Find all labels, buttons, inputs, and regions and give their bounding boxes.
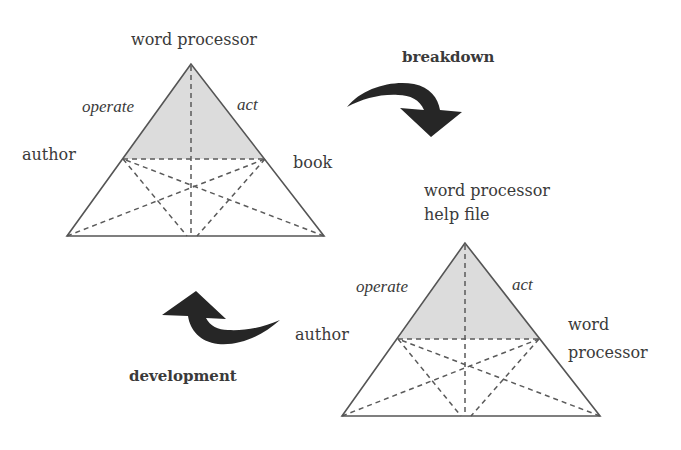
right-vertex-label-line2: processor [568, 343, 648, 362]
apex-label-line2: help file [424, 205, 489, 224]
curved-arrow-up-icon [162, 291, 280, 344]
apex-label: word processor [131, 30, 257, 49]
curved-arrow-down-icon [347, 83, 462, 137]
left-edge-label: operate [356, 277, 408, 296]
left-edge-label: operate [82, 97, 134, 116]
left-vertex-label: author [22, 145, 76, 164]
right-edge-label: act [237, 95, 259, 114]
dashed-diagonal [197, 159, 265, 236]
breakdown-label: breakdown [402, 48, 494, 66]
development-arrow-group: development [129, 291, 280, 385]
left-vertex-label: author [295, 325, 349, 344]
right-edge-label: act [512, 275, 534, 294]
triangle-top-left: word processor operate act author book [22, 30, 333, 236]
dashed-diagonal [67, 159, 265, 236]
activity-diagram: word processor operate act author book b… [0, 0, 681, 450]
breakdown-arrow-group: breakdown [347, 48, 494, 137]
right-vertex-label-line1: word [568, 315, 609, 334]
dashed-diagonal [471, 339, 539, 416]
right-vertex-label: book [293, 153, 333, 172]
apex-label-line1: word processor [424, 181, 550, 200]
dashed-diagonal [342, 339, 539, 416]
triangle-bottom-right: word processor help file operate act aut… [295, 181, 648, 416]
development-label: development [129, 367, 237, 385]
